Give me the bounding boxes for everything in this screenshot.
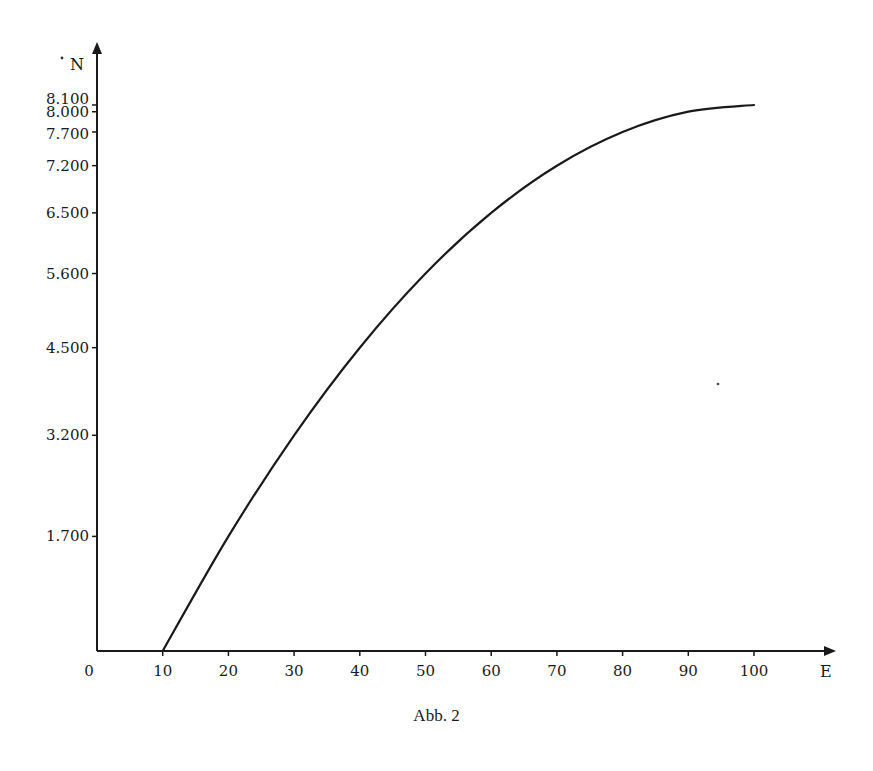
y-tick-label: 7.700: [46, 125, 89, 143]
y-tick-label: 5.600: [46, 265, 89, 283]
x-tick-label: 90: [679, 662, 698, 680]
y-tick-label: 8.100: [46, 90, 89, 108]
x-tick-label: 30: [285, 662, 304, 680]
y-tick-label: 7.200: [46, 157, 89, 175]
line-chart: N 1.7003.2004.5005.6006.5007.2007.7008.0…: [0, 0, 873, 771]
chart-figure: N 1.7003.2004.5005.6006.5007.2007.7008.0…: [0, 0, 873, 771]
y-ticks: 1.7003.2004.5005.6006.5007.2007.7008.000…: [46, 90, 97, 545]
x-tick-label: 80: [613, 662, 632, 680]
x-tick-label: 40: [350, 662, 369, 680]
x-tick-label: 60: [482, 662, 501, 680]
figure-caption: Abb. 2: [0, 706, 873, 726]
x-tick-label: 20: [219, 662, 238, 680]
x-axis: E 0102030405060708090100: [84, 651, 834, 681]
y-tick-label: 6.500: [46, 204, 89, 222]
x-tick-label: 0: [84, 662, 94, 680]
y-axis-label: N: [70, 55, 84, 74]
data-curve: [163, 105, 754, 651]
x-tick-label: 100: [740, 662, 769, 680]
x-tick-label: 70: [547, 662, 566, 680]
x-axis-label: E: [820, 662, 832, 681]
y-tick-label: 4.500: [46, 339, 89, 357]
speck-mark: [61, 57, 64, 60]
x-tick-label: 10: [153, 662, 172, 680]
y-tick-label: 3.200: [46, 426, 89, 444]
y-tick-label: 1.700: [46, 527, 89, 545]
x-ticks: 0102030405060708090100: [84, 651, 768, 680]
speck-mark: [717, 383, 720, 386]
x-tick-label: 50: [416, 662, 435, 680]
y-axis: N 1.7003.2004.5005.6006.5007.2007.7008.0…: [46, 44, 97, 651]
